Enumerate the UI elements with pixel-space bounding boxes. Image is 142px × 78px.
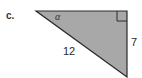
- angle-alpha-label: α: [55, 11, 61, 22]
- right-triangle: [36, 11, 127, 77]
- vertical-leg-label: 7: [131, 36, 137, 48]
- triangle-figure: c. α 12 7: [0, 0, 142, 78]
- hypotenuse-label: 12: [63, 45, 75, 57]
- part-label: c.: [6, 10, 15, 21]
